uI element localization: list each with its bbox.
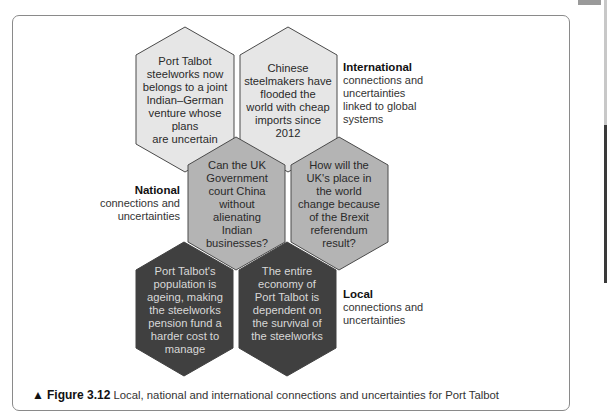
- figure-caption: ▲ Figure 3.12 Local, national and intern…: [32, 388, 499, 402]
- label-national-title: National: [135, 184, 180, 196]
- label-national: National connections and uncertainties: [80, 184, 180, 223]
- label-local-title: Local: [343, 288, 373, 300]
- hex-national-2-text: How will the UK's place in the world cha…: [294, 158, 384, 250]
- hex-international-1-text: Port Talbot steelworks now belongs to a …: [140, 55, 230, 145]
- label-international: International connections and uncertaint…: [343, 61, 423, 126]
- hex-local-1-text: Port Talbot's population is ageing, maki…: [140, 264, 230, 356]
- label-local: Local connections and uncertainties: [343, 288, 423, 327]
- hex-local-2-text: The entire economy of Port Talbot is dep…: [242, 264, 332, 344]
- label-international-title: International: [343, 61, 412, 73]
- hex-international-2-text: Chinese steelmakers have flooded the wor…: [243, 56, 333, 146]
- figure-number: Figure 3.12: [47, 388, 110, 402]
- triangle-marker-icon: ▲: [32, 388, 44, 402]
- figure-caption-text: Local, national and international connec…: [114, 389, 499, 401]
- hex-national-1-text: Can the UK Government court China withou…: [192, 158, 282, 250]
